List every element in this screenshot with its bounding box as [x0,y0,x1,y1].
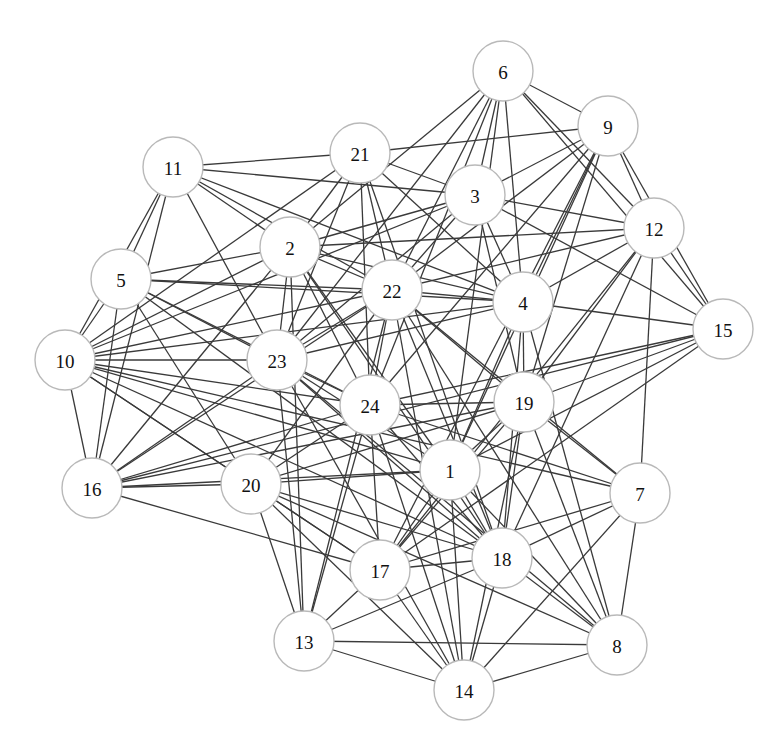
node-label: 8 [612,636,622,657]
node-14: 14 [434,660,494,720]
node-label: 10 [56,351,75,372]
node-label: 11 [164,158,182,179]
node-label: 3 [470,186,480,207]
node-3: 3 [445,165,505,225]
node-label: 7 [635,484,645,505]
graph-diagram: 123456789101112131415161718192021222324 [0,0,784,742]
node-label: 18 [493,549,512,570]
node-label: 15 [714,320,733,341]
node-label: 24 [361,396,381,417]
node-label: 12 [645,219,664,240]
node-16: 16 [62,458,122,518]
background [0,0,784,742]
node-label: 20 [242,475,261,496]
node-22: 22 [362,260,422,320]
node-2: 2 [260,217,320,277]
node-1: 1 [420,440,480,500]
node-23: 23 [247,330,307,390]
node-12: 12 [624,198,684,258]
node-5: 5 [91,249,151,309]
node-20: 20 [221,454,281,514]
node-label: 21 [351,144,370,165]
node-24: 24 [340,375,400,435]
node-label: 14 [455,681,475,702]
node-label: 17 [371,561,390,582]
node-label: 5 [116,270,126,291]
node-21: 21 [330,123,390,183]
node-label: 6 [498,62,508,83]
node-label: 22 [383,281,402,302]
node-8: 8 [587,615,647,675]
node-10: 10 [35,330,95,390]
node-17: 17 [350,540,410,600]
node-13: 13 [274,611,334,671]
node-9: 9 [578,96,638,156]
node-label: 4 [518,293,528,314]
node-4: 4 [493,272,553,332]
node-label: 9 [603,117,613,138]
node-label: 2 [285,238,295,259]
node-label: 19 [515,393,534,414]
node-label: 1 [445,461,455,482]
node-6: 6 [473,41,533,101]
node-18: 18 [472,528,532,588]
node-7: 7 [610,463,670,523]
node-label: 13 [295,632,314,653]
node-15: 15 [693,299,753,359]
node-11: 11 [143,137,203,197]
node-label: 16 [83,479,102,500]
node-label: 23 [268,351,287,372]
node-19: 19 [494,372,554,432]
